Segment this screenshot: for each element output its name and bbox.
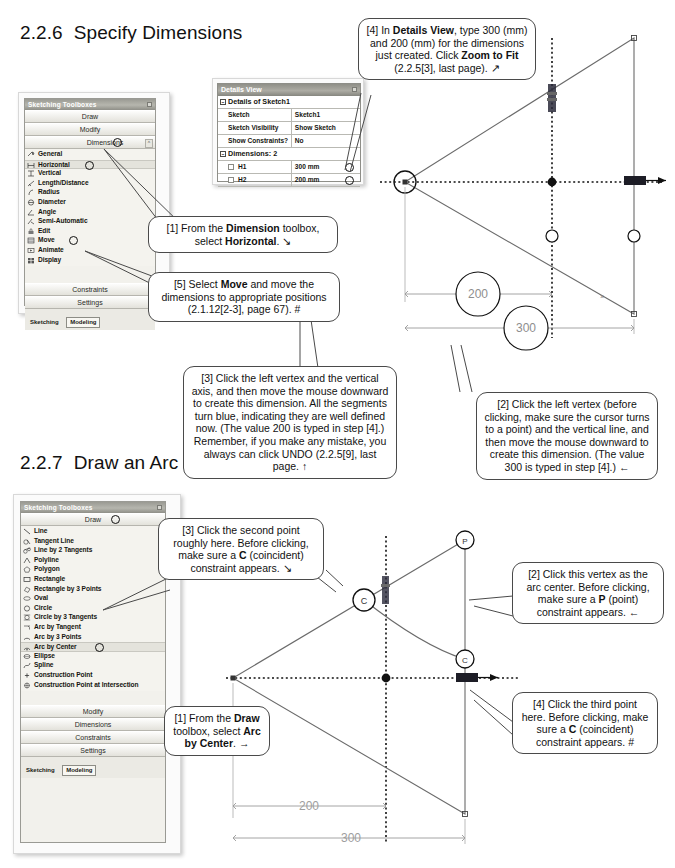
- callout-4-third-point: [4] Click the third point here. Before c…: [512, 692, 658, 754]
- callout-2-left-vertex: [2] Click the left vertex (before clicki…: [476, 392, 658, 480]
- callout-3-left-vertex: [3] Click the left vertex and the vertic…: [183, 366, 397, 479]
- leader-details: [345, 93, 371, 172]
- callout-2-arc-center: [2] Click this vertex as the arc center.…: [512, 562, 664, 624]
- leader-third-point: [470, 690, 513, 735]
- callout-1-draw-toolbox: [1] From the Draw toolbox, select Arc by…: [164, 706, 270, 756]
- callout-3-second-point: [3] Click the second point roughly here.…: [158, 518, 324, 580]
- callout-5-move: [5] Select Move and move the dimensions …: [148, 272, 340, 322]
- callout-4-details-view: [4] In Details View, type 300 (mm) and 2…: [358, 18, 536, 80]
- callout-1-dimension-toolbox: [1] From the Dimension toolbox, select H…: [148, 216, 338, 253]
- leader-dim300: [451, 345, 472, 392]
- leader-arc-center: [469, 596, 513, 616]
- leader-arc-by-center: [103, 578, 170, 610]
